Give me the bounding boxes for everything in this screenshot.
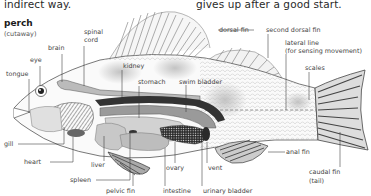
label-caudal-fin-line2: (tail) [309, 177, 324, 185]
eye-shape [36, 86, 47, 97]
label-dorsal-fin: dorsal fin [219, 26, 249, 34]
label-eye: eye [30, 56, 42, 64]
label-intestine: intestine [163, 187, 191, 195]
label-gill: gill [4, 140, 13, 148]
diagram-title: perch [4, 18, 33, 28]
label-spleen: spleen [70, 176, 91, 184]
book-page: indirect way. gives up after a good star… [0, 0, 371, 196]
label-anal-fin: anal fin [286, 148, 310, 156]
heart-shape [67, 129, 85, 137]
label-swim-bladder: swim bladder [179, 78, 222, 86]
urinary-bladder-shape [202, 127, 210, 141]
label-lateral-line-line1: lateral line [285, 39, 319, 47]
label-caudal-fin-line1: caudal fin [309, 168, 340, 176]
diagram-subtitle: (cutaway) [4, 30, 36, 38]
label-vent: vent [208, 164, 222, 172]
label-pelvic-fin: pelvic fin [106, 187, 135, 195]
label-second-dorsal-fin: second dorsal fin [266, 26, 321, 34]
label-liver: liver [91, 161, 105, 169]
label-ovary: ovary [166, 164, 184, 172]
caudal-fin-shape [315, 70, 368, 150]
label-lateral-line-line2: (for sensing movement) [285, 47, 362, 55]
label-tongue: tongue [6, 70, 29, 78]
label-kidney: kidney [123, 62, 144, 70]
label-heart: heart [24, 158, 41, 166]
label-scales: scales [305, 64, 325, 72]
label-stomach: stomach [138, 78, 165, 86]
label-urinary-bladder: urinary bladder [203, 187, 252, 195]
label-spinal-cord-line1: spinal [84, 28, 103, 36]
label-spinal-cord-line2: cord [84, 36, 98, 44]
dorsal-fin-shape [110, 12, 210, 58]
label-brain: brain [48, 44, 64, 52]
